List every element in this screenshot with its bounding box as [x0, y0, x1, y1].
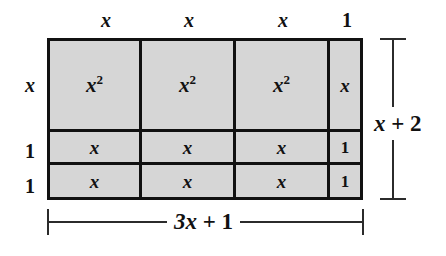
top-column-label-4: 1: [322, 10, 372, 30]
tile-x-row3-1: x: [50, 165, 142, 197]
bottom-dim-constant: 1: [222, 209, 234, 234]
left-row-label-2: 1: [18, 141, 42, 161]
right-dim-constant: 2: [410, 111, 422, 136]
top-column-label-1: x: [81, 10, 131, 30]
tile-label: x2: [273, 75, 290, 96]
tile-label: x: [183, 172, 193, 191]
right-dim-operator: +: [391, 111, 404, 136]
tile-unit-row3: 1: [330, 165, 360, 197]
tile-x-squared-1: x2: [50, 41, 142, 132]
tile-x-right-1: x: [330, 41, 360, 132]
right-dimension-label: x + 2: [374, 107, 422, 140]
tile-label: x: [183, 138, 193, 157]
tile-label: x2: [179, 75, 196, 96]
tile-label: x: [90, 138, 100, 157]
tile-label: 1: [341, 139, 350, 156]
top-column-label-2: x: [164, 10, 214, 30]
bottom-dim-variable: 3x: [174, 209, 197, 234]
tile-label: x: [277, 172, 287, 191]
tile-x-squared-3: x2: [236, 41, 330, 132]
tile-x-squared-2: x2: [142, 41, 236, 132]
tile-label: x: [90, 172, 100, 191]
tile-x-row2-3: x: [236, 132, 330, 165]
bottom-dimension-label: 3x + 1: [167, 210, 240, 233]
algebra-tiles-diagram: x x x 1 x 1 1 x2 x2 x2 x x x x 1: [0, 0, 446, 256]
tile-x-row2-1: x: [50, 132, 142, 165]
tile-label: x: [277, 138, 287, 157]
tile-unit-row2: 1: [330, 132, 360, 165]
tile-label: x: [340, 76, 350, 95]
tile-x-row2-2: x: [142, 132, 236, 165]
right-dim-variable: x: [374, 111, 386, 136]
tile-x-row3-2: x: [142, 165, 236, 197]
left-row-label-3: 1: [18, 176, 42, 196]
tile-label: x2: [86, 75, 103, 96]
bottom-dim-operator: +: [203, 209, 216, 234]
top-column-label-3: x: [258, 10, 308, 30]
tile-x-row3-3: x: [236, 165, 330, 197]
tile-grid: x2 x2 x2 x x x x 1 x x x: [47, 38, 363, 200]
left-row-label-1: x: [18, 75, 42, 95]
tile-label: 1: [341, 173, 350, 190]
